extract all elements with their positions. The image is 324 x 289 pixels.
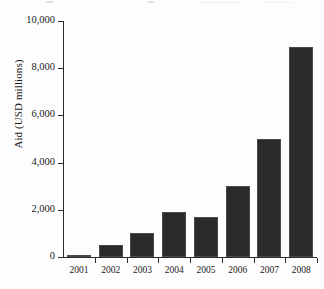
- y-tick-mark: [58, 210, 63, 211]
- y-tick-label: 0: [50, 250, 55, 261]
- x-tick-mark: [158, 258, 159, 263]
- bar-chart-figure: Aid (USD millions) 02,0004,0006,0008,000…: [0, 0, 324, 289]
- y-tick-label: 6,000: [31, 108, 55, 119]
- x-tick-label-2005: 2005: [190, 265, 222, 275]
- y-tick-mark: [58, 115, 63, 116]
- x-tick-mark: [285, 258, 286, 263]
- x-tick-mark: [190, 258, 191, 263]
- y-tick-mark: [58, 68, 63, 69]
- x-tick-mark: [254, 258, 255, 263]
- y-tick-label: 8,000: [31, 61, 55, 72]
- bar-2001: [67, 255, 91, 257]
- scan-artifact: [198, 2, 240, 3]
- scan-artifact: [148, 1, 154, 3]
- y-tick-label: 4,000: [31, 156, 55, 167]
- y-tick-label: 2,000: [31, 203, 55, 214]
- bar-2003: [130, 233, 154, 257]
- x-tick-mark: [127, 258, 128, 263]
- bar-2005: [194, 217, 218, 257]
- y-axis-title: Aid (USD millions): [12, 24, 24, 184]
- x-tick-label-2006: 2006: [222, 265, 254, 275]
- bar-2002: [99, 245, 123, 257]
- x-tick-mark: [317, 258, 318, 263]
- x-tick-label-2001: 2001: [63, 265, 95, 275]
- plot-area: 02,0004,0006,0008,00010,000 200120022003…: [63, 21, 317, 257]
- bar-2007: [257, 139, 281, 257]
- x-tick-mark: [222, 258, 223, 263]
- scan-artifact: [46, 1, 53, 3]
- x-tick-label-2003: 2003: [127, 265, 159, 275]
- x-tick-label-2007: 2007: [254, 265, 286, 275]
- x-tick-label-2004: 2004: [158, 265, 190, 275]
- x-tick-label-2002: 2002: [95, 265, 127, 275]
- bar-2006: [226, 186, 250, 257]
- y-axis-line: [63, 21, 64, 258]
- y-tick-mark: [58, 21, 63, 22]
- y-tick-mark: [58, 163, 63, 164]
- y-tick-mark: [58, 257, 63, 258]
- x-tick-label-2008: 2008: [285, 265, 317, 275]
- scan-artifact: [262, 2, 292, 3]
- bar-2008: [289, 47, 313, 257]
- y-tick-label: 10,000: [26, 14, 55, 25]
- x-tick-mark: [95, 258, 96, 263]
- bar-2004: [162, 212, 186, 257]
